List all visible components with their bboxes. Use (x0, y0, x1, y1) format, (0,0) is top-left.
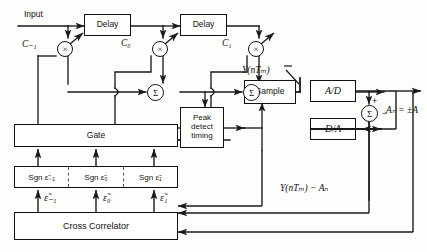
wiring-layer-final (0, 0, 427, 252)
block-diagram-canvas: Delay Delay Gate Peak detect timing Samp… (0, 0, 427, 252)
